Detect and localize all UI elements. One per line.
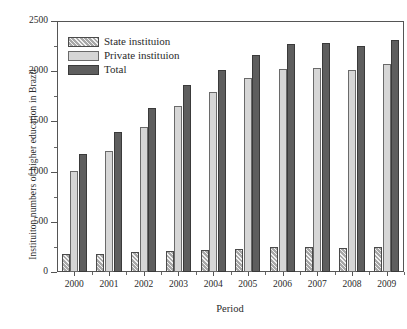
y-tick-mark xyxy=(51,272,57,273)
y-minor-tick-mark xyxy=(54,247,58,248)
bar-private-instituion xyxy=(140,127,148,272)
bar-private-instituion xyxy=(348,70,356,272)
x-tick-mark xyxy=(352,272,353,276)
y-axis-title: Instituiton numbers of higher education … xyxy=(22,0,44,329)
bar-private-instituion xyxy=(244,78,252,272)
y-tick-mark xyxy=(51,172,57,173)
bar-private-instituion xyxy=(279,69,287,272)
x-tick-mark xyxy=(213,272,214,276)
bar-state-instituion xyxy=(305,247,313,272)
bar-state-instituion xyxy=(235,249,243,272)
y-minor-tick-mark xyxy=(54,46,58,47)
legend-item: Total xyxy=(68,63,179,76)
bar-state-instituion xyxy=(374,247,382,272)
y-tick-label: 0 xyxy=(8,266,48,276)
y-tick-mark xyxy=(51,71,57,72)
y-tick-mark xyxy=(51,121,57,122)
x-minor-tick-mark xyxy=(231,272,232,275)
y-tick-label: 2500 xyxy=(8,15,48,25)
legend-item-label: State instituion xyxy=(104,36,170,47)
x-tick-mark xyxy=(144,272,145,276)
bar-state-instituion xyxy=(201,250,209,272)
x-minor-tick-mark xyxy=(300,272,301,275)
bar-private-instituion xyxy=(70,171,78,272)
y-minor-tick-mark xyxy=(54,147,58,148)
bar-total xyxy=(357,46,365,272)
dark-gray-swatch-icon xyxy=(68,65,99,75)
x-tick-mark xyxy=(109,272,110,276)
x-minor-tick-mark xyxy=(161,272,162,275)
bar-state-instituion xyxy=(131,252,139,272)
light-gray-swatch-icon xyxy=(68,51,99,61)
x-minor-tick-mark xyxy=(92,272,93,275)
bar-private-instituion xyxy=(383,64,391,272)
x-minor-tick-mark xyxy=(196,272,197,275)
x-minor-tick-mark xyxy=(369,272,370,275)
x-tick-mark xyxy=(317,272,318,276)
bar-state-instituion xyxy=(270,247,278,272)
y-tick-mark xyxy=(51,222,57,223)
bar-total xyxy=(183,85,191,272)
x-minor-tick-mark xyxy=(335,272,336,275)
y-tick-label: 1000 xyxy=(8,166,48,176)
bar-total xyxy=(252,55,260,272)
bar-private-instituion xyxy=(313,68,321,272)
legend-item: State instituion xyxy=(68,35,179,48)
x-tick-mark xyxy=(283,272,284,276)
chart-figure: Instituiton numbers of higher education … xyxy=(0,0,407,329)
bar-total xyxy=(148,108,156,272)
y-tick-label: 2000 xyxy=(8,65,48,75)
bar-total xyxy=(391,40,399,272)
bar-total xyxy=(114,132,122,272)
x-tick-label: 2009 xyxy=(367,279,407,289)
bar-total xyxy=(218,70,226,272)
chart-legend: State instituionPrivate instituionTotal xyxy=(68,35,179,76)
bar-private-instituion xyxy=(209,92,217,272)
legend-item: Private instituion xyxy=(68,49,179,62)
bar-state-instituion xyxy=(96,254,104,272)
hatch-swatch-icon xyxy=(68,37,99,47)
bar-total xyxy=(322,43,330,272)
x-minor-tick-mark xyxy=(265,272,266,275)
x-minor-tick-mark xyxy=(404,272,405,275)
y-minor-tick-mark xyxy=(54,197,58,198)
x-axis-title: Period xyxy=(56,303,404,314)
legend-item-label: Private instituion xyxy=(104,50,179,61)
y-tick-mark xyxy=(51,21,57,22)
x-tick-mark xyxy=(74,272,75,276)
bar-private-instituion xyxy=(105,151,113,272)
x-tick-mark xyxy=(178,272,179,276)
legend-item-label: Total xyxy=(104,64,126,75)
x-tick-mark xyxy=(248,272,249,276)
bar-private-instituion xyxy=(174,106,182,272)
bar-total xyxy=(79,154,87,272)
y-tick-label: 500 xyxy=(8,216,48,226)
bar-state-instituion xyxy=(62,254,70,272)
x-tick-mark xyxy=(387,272,388,276)
y-tick-label: 1500 xyxy=(8,115,48,125)
y-minor-tick-mark xyxy=(54,96,58,97)
bar-total xyxy=(287,44,295,272)
x-minor-tick-mark xyxy=(126,272,127,275)
bar-state-instituion xyxy=(166,251,174,272)
bar-state-instituion xyxy=(339,248,347,272)
